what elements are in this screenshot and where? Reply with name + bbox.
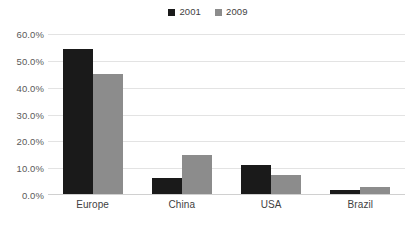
x-axis-tick-label-brazil: Brazil [316,199,405,219]
bar-group-europe [48,34,137,195]
x-axis-tick-label-china: China [137,199,226,219]
legend-label-2001: 2001 [179,7,201,17]
bar-europe-2001[interactable] [63,49,93,195]
bar-group-brazil [316,34,405,195]
x-axis-line [48,194,405,195]
y-axis-tick-label: 20.0% [17,136,44,147]
plot-area [48,34,405,195]
y-axis-labels: 60.0%50.0%40.0%30.0%20.0%10.0%0.0% [0,34,44,195]
legend-item-2001[interactable]: 2001 [168,7,201,17]
legend-item-2009[interactable]: 2009 [215,7,248,17]
legend-label-2009: 2009 [226,7,248,17]
y-axis-tick-label: 40.0% [17,82,44,93]
y-axis-tick-label: 60.0% [17,29,44,40]
bar-group-usa [227,34,316,195]
bar-china-2001[interactable] [152,178,182,195]
y-axis-tick-label: 10.0% [17,163,44,174]
bar-europe-2009[interactable] [93,74,123,195]
bar-group-china [137,34,226,195]
bar-groups [48,34,405,195]
y-axis-tick-label: 50.0% [17,55,44,66]
x-axis-labels: EuropeChinaUSABrazil [48,199,405,219]
x-axis-tick-label-usa: USA [227,199,316,219]
chart-legend: 2001 2009 [0,4,416,20]
y-axis-tick-label: 30.0% [17,109,44,120]
bar-chart: 2001 2009 60.0%50.0%40.0%30.0%20.0%10.0%… [0,0,416,226]
bar-usa-2009[interactable] [271,175,301,195]
x-axis-tick-label-europe: Europe [48,199,137,219]
y-axis-tick-label: 0.0% [22,190,44,201]
legend-swatch-2001 [168,9,175,16]
bar-china-2009[interactable] [182,155,212,195]
legend-swatch-2009 [215,9,222,16]
bar-usa-2001[interactable] [241,165,271,195]
